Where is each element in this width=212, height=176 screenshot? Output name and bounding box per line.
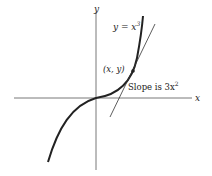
slope-label: Slope is 3x2 bbox=[128, 80, 179, 92]
x-axis-label: x bbox=[195, 93, 200, 103]
function-label: y = x3 bbox=[112, 20, 140, 32]
y-axis-label: y bbox=[93, 4, 100, 14]
cubic-tangent-diagram: x y y = x3 (x, y) Slope is 3x2 bbox=[0, 0, 212, 176]
point-label: (x, y) bbox=[103, 64, 125, 74]
tangent-point bbox=[131, 69, 135, 73]
